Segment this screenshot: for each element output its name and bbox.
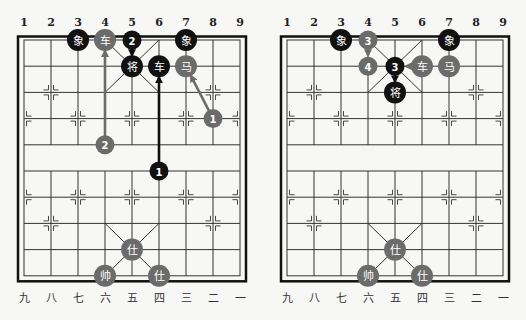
file-number: 9: [236, 16, 244, 29]
file-label: 九: [19, 292, 30, 305]
piece-black[interactable]: 象: [330, 29, 352, 51]
move-number-marker: 1: [150, 162, 169, 181]
move-number-marker: 2: [123, 31, 142, 50]
file-label: 一: [235, 292, 246, 305]
file-number: 1: [20, 16, 28, 29]
piece-label: 仕: [390, 244, 401, 257]
file-label: 九: [282, 292, 293, 305]
piece-label: 仕: [417, 270, 428, 283]
file-label: 五: [390, 292, 401, 305]
file-label: 八: [46, 292, 57, 305]
pieces: 象车象将车马仕帅仕2121: [67, 29, 223, 287]
piece-red[interactable]: 帅: [94, 265, 116, 287]
file-label: 七: [336, 292, 347, 305]
file-number: 3: [337, 16, 345, 29]
file-number: 9: [499, 16, 507, 29]
piece-label: 象: [181, 35, 192, 48]
piece-label: 象: [73, 35, 84, 48]
piece-label: 象: [444, 35, 455, 48]
piece-red[interactable]: 车: [94, 29, 116, 51]
piece-label: 将: [390, 87, 401, 100]
piece-black[interactable]: 象: [175, 29, 197, 51]
piece-label: 车: [100, 34, 111, 48]
piece-black[interactable]: 象: [438, 29, 460, 51]
piece-red[interactable]: 帅: [357, 265, 379, 287]
file-number: 6: [418, 16, 426, 29]
piece-label: 帅: [100, 270, 111, 283]
piece-label: 帅: [363, 270, 374, 283]
svg-text:4: 4: [365, 62, 372, 73]
file-label: 三: [444, 292, 455, 305]
file-label: 一: [498, 292, 509, 305]
piece-red[interactable]: 马: [175, 55, 197, 77]
file-number: 7: [445, 16, 453, 29]
file-number: 6: [155, 16, 163, 29]
piece-black[interactable]: 将: [384, 81, 406, 103]
piece-red[interactable]: 仕: [411, 265, 433, 287]
move-number-marker: 2: [96, 135, 115, 154]
file-number: 2: [310, 16, 318, 29]
piece-black[interactable]: 车: [148, 55, 170, 77]
piece-label: 马: [444, 61, 455, 74]
piece-label: 车: [154, 60, 165, 74]
file-label: 二: [471, 292, 482, 305]
file-number: 7: [182, 16, 190, 29]
svg-text:1: 1: [156, 167, 163, 178]
svg-text:2: 2: [102, 140, 109, 151]
file-number: 4: [101, 16, 109, 29]
file-label: 二: [208, 292, 219, 305]
piece-red[interactable]: 马: [438, 55, 460, 77]
file-label: 七: [73, 292, 84, 305]
file-number: 5: [128, 16, 136, 29]
board-right: 123456789九八七六五四三二一象象车马将仕帅仕343: [281, 16, 509, 305]
file-label: 四: [417, 292, 428, 305]
file-number: 3: [74, 16, 82, 29]
piece-label: 车: [417, 60, 428, 74]
file-number: 5: [391, 16, 399, 29]
svg-text:3: 3: [365, 36, 372, 47]
piece-label: 将: [127, 61, 138, 74]
file-number: 8: [209, 16, 217, 29]
piece-label: 仕: [127, 244, 138, 257]
pieces: 象象车马将仕帅仕343: [330, 29, 460, 287]
move-number-marker: 1: [204, 109, 223, 128]
file-label: 八: [309, 292, 320, 305]
piece-label: 马: [181, 61, 192, 74]
piece-red[interactable]: 仕: [384, 239, 406, 261]
svg-text:1: 1: [210, 114, 217, 125]
file-number: 1: [283, 16, 291, 29]
piece-red[interactable]: 车: [411, 55, 433, 77]
piece-black[interactable]: 将: [121, 55, 143, 77]
file-number: 4: [364, 16, 372, 29]
move-number-marker: 3: [386, 57, 405, 76]
move-number-marker: 4: [359, 57, 378, 76]
board-left: 123456789九八七六五四三二一象车象将车马仕帅仕2121: [18, 16, 246, 305]
chess-diagram-stage: 123456789九八七六五四三二一象车象将车马仕帅仕2121123456789…: [0, 0, 526, 320]
file-label: 五: [127, 292, 138, 305]
svg-text:3: 3: [392, 62, 399, 73]
file-label: 四: [154, 292, 165, 305]
move-number-marker: 3: [359, 31, 378, 50]
file-label: 六: [100, 292, 111, 305]
piece-label: 象: [336, 35, 347, 48]
svg-text:2: 2: [129, 36, 136, 47]
piece-label: 仕: [154, 270, 165, 283]
file-label: 六: [363, 292, 374, 305]
file-number: 8: [472, 16, 480, 29]
file-label: 三: [181, 292, 192, 305]
piece-black[interactable]: 象: [67, 29, 89, 51]
piece-red[interactable]: 仕: [121, 239, 143, 261]
file-number: 2: [47, 16, 55, 29]
piece-red[interactable]: 仕: [148, 265, 170, 287]
